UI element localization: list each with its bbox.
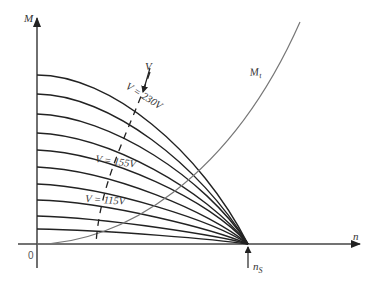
label-v155: V = 155V [95,153,138,170]
voltage-arrow-label: V [145,60,153,72]
y-axis-label: M [23,12,34,24]
origin-label: 0 [28,250,34,261]
sync-speed-label: nS [253,260,263,275]
x-axis-label: n [353,230,359,242]
torque-speed-diagram: M n 0 nS Mt V V = 230V V = 155V V = 115V [0,0,378,284]
load-curve-label: Mt [248,65,262,81]
